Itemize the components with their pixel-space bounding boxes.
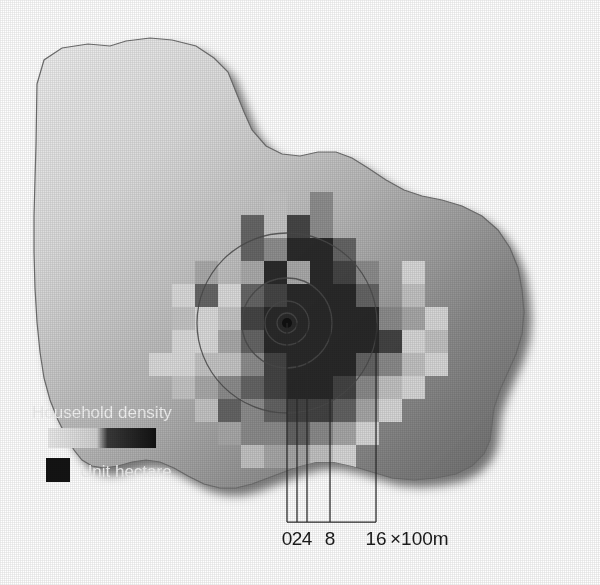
scale-tick-label: 0 <box>282 528 293 549</box>
density-cell <box>356 284 379 307</box>
density-cell <box>402 261 425 284</box>
density-cell <box>218 399 241 422</box>
density-cell <box>195 261 218 284</box>
density-cell <box>218 307 241 330</box>
density-cell <box>333 330 356 353</box>
density-cell <box>241 215 264 238</box>
density-cell <box>333 422 356 445</box>
density-cell <box>310 284 333 307</box>
density-cell <box>218 353 241 376</box>
density-cell <box>264 192 287 215</box>
density-cell <box>402 307 425 330</box>
density-cell <box>379 399 402 422</box>
legend-unit-label: Unit hectare <box>80 462 172 481</box>
density-cell <box>264 261 287 284</box>
density-cell <box>333 284 356 307</box>
density-cell <box>241 445 264 468</box>
density-cell <box>402 353 425 376</box>
density-cell <box>310 215 333 238</box>
density-cell <box>264 445 287 468</box>
density-cell <box>195 399 218 422</box>
map-canvas: Household density Unit hectare 024816×10… <box>0 0 600 585</box>
density-cell <box>241 353 264 376</box>
density-cell <box>287 261 310 284</box>
density-cell <box>218 330 241 353</box>
density-cell <box>241 284 264 307</box>
scale-unit-label: ×100m <box>390 528 449 549</box>
map-figure: Household density Unit hectare 024816×10… <box>0 0 600 585</box>
density-cell <box>425 330 448 353</box>
scale-tick-label: 8 <box>325 528 336 549</box>
density-cell <box>264 353 287 376</box>
density-cell <box>333 376 356 399</box>
density-cell <box>264 376 287 399</box>
density-cell <box>172 284 195 307</box>
density-cell <box>264 422 287 445</box>
legend-title: Household density <box>32 403 172 422</box>
density-cell <box>310 192 333 215</box>
density-cell <box>195 284 218 307</box>
density-cell <box>356 261 379 284</box>
density-cell <box>425 353 448 376</box>
density-cell <box>172 353 195 376</box>
legend-unit-swatch <box>46 458 70 482</box>
density-cell <box>333 307 356 330</box>
density-cell <box>241 422 264 445</box>
legend-color-ramp <box>48 428 156 448</box>
scale-bar-labels: 024816×100m <box>282 528 449 549</box>
density-cell <box>310 238 333 261</box>
density-cell <box>333 353 356 376</box>
density-cell <box>402 284 425 307</box>
density-cell <box>379 307 402 330</box>
density-cell <box>379 376 402 399</box>
density-cell <box>379 330 402 353</box>
density-cell <box>425 307 448 330</box>
density-cell <box>241 261 264 284</box>
density-cell <box>379 353 402 376</box>
density-cell <box>402 330 425 353</box>
density-cell <box>218 284 241 307</box>
density-cell <box>264 238 287 261</box>
density-cell <box>172 307 195 330</box>
density-cell <box>241 330 264 353</box>
density-cell <box>333 261 356 284</box>
density-cell <box>241 238 264 261</box>
density-cell <box>310 261 333 284</box>
density-cell <box>241 376 264 399</box>
scale-tick-label: 2 <box>292 528 303 549</box>
scale-tick-label: 16 <box>365 528 386 549</box>
density-cell <box>333 399 356 422</box>
density-cell <box>218 422 241 445</box>
density-cell <box>333 238 356 261</box>
density-cell <box>402 376 425 399</box>
density-cell <box>172 330 195 353</box>
density-cell <box>287 238 310 261</box>
density-cell <box>218 376 241 399</box>
density-cell <box>149 353 172 376</box>
scale-tick-label: 4 <box>302 528 313 549</box>
density-cell <box>172 376 195 399</box>
density-cell <box>195 376 218 399</box>
legend: Household density Unit hectare <box>32 403 172 482</box>
